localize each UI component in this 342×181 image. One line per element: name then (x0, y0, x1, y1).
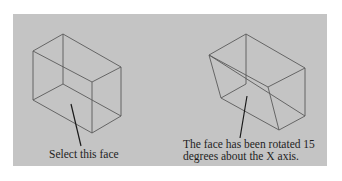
right-leader-line (240, 96, 247, 138)
right-box-wireframe (209, 34, 305, 130)
left-box-wireframe (33, 34, 121, 133)
right-caption-line2: degrees about the X axis. (183, 150, 299, 162)
left-caption: Select this face (49, 148, 119, 160)
right-caption-line1: The face has been rotated 15 (183, 138, 315, 150)
left-leader-line (71, 104, 81, 146)
